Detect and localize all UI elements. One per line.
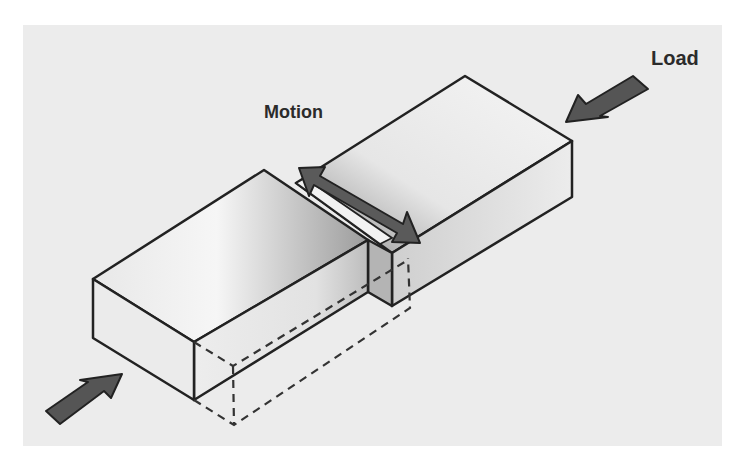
load-label: Load — [651, 47, 699, 70]
load-arrow-icon — [566, 76, 648, 122]
fretting-diagram — [0, 0, 741, 463]
motion-label: Motion — [264, 102, 323, 123]
push-arrow-icon — [46, 374, 122, 424]
